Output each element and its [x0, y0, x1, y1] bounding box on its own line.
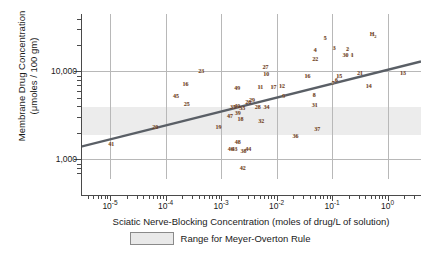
data-point-label: 16	[304, 73, 310, 79]
x-tick-minor	[320, 195, 321, 199]
y-tick-minor	[77, 164, 82, 165]
data-point-label: 14	[366, 83, 372, 89]
x-tick-minor	[93, 195, 94, 199]
data-point-label: 8	[313, 92, 316, 98]
gridline-horizontal-1000	[81, 159, 421, 160]
y-tick-minor	[77, 117, 82, 118]
data-point-label: 28	[255, 104, 261, 110]
scatter-plot-figure: 4120451625231947354049394643483318384442…	[0, 0, 440, 257]
data-point-label: 29	[249, 97, 255, 103]
data-point-label: 16	[183, 81, 189, 87]
y-tick-minor	[77, 29, 82, 30]
data-point-label: 36	[293, 133, 299, 139]
x-tick-minor	[414, 195, 415, 199]
x-tick-label: 10-4	[158, 199, 173, 211]
x-tick-minor	[107, 195, 108, 199]
x-tick-minor	[382, 195, 383, 199]
x-tick-minor	[101, 195, 102, 199]
x-tick-minor	[323, 195, 324, 199]
data-point-label: 18	[238, 116, 244, 122]
x-tick-minor	[219, 195, 220, 199]
gridline-vertical-0	[110, 14, 111, 179]
x-tick-minor	[105, 195, 106, 199]
x-tick-minor	[160, 195, 161, 199]
data-point-label: 1	[351, 52, 354, 58]
x-tick-minor	[404, 195, 405, 199]
x-tick-minor	[379, 195, 380, 199]
x-tick-minor	[303, 195, 304, 199]
y-tick-minor	[77, 45, 82, 46]
x-tick-minor	[192, 195, 193, 199]
x-tick-minor	[274, 195, 275, 199]
x-tick-minor	[238, 195, 239, 199]
y-tick-label: 10,000	[51, 66, 77, 76]
legend: Range for Meyer-Overton Rule	[0, 232, 440, 245]
data-point-label: 4	[314, 47, 317, 53]
data-point-label: 3	[333, 45, 336, 51]
data-point-label: 42	[240, 165, 246, 171]
gridline-vertical-1	[166, 14, 167, 179]
x-tick-label: 10-5	[102, 199, 117, 211]
data-point-label: 19	[216, 124, 222, 130]
x-tick-minor	[248, 195, 249, 199]
x-tick-minor	[157, 195, 158, 199]
legend-swatch-meyer-overton	[130, 232, 174, 245]
x-tick-minor	[359, 195, 360, 199]
x-tick-minor	[153, 195, 154, 199]
x-axis-title: Sciatic Nerve-Blocking Concentration (mo…	[81, 216, 421, 227]
data-point-label: 9	[282, 93, 285, 99]
x-tick-minor	[204, 195, 205, 199]
x-tick-minor	[371, 195, 372, 199]
x-tick-minor	[268, 195, 269, 199]
meyer-overton-band	[81, 107, 421, 134]
x-tick-minor	[375, 195, 376, 199]
y-tick-minor	[77, 168, 82, 169]
data-point-label: H2	[370, 31, 377, 39]
data-point-label: 31	[312, 102, 318, 108]
x-tick-label: 10-1	[324, 199, 339, 211]
y-tick-minor	[77, 173, 82, 174]
data-point-label: 27	[262, 64, 268, 70]
x-tick-minor	[209, 195, 210, 199]
data-point-label: 45	[173, 93, 179, 99]
y-axis-title-line2: (μmoles / 100 gm)	[28, 0, 40, 156]
legend-label-meyer-overton: Range for Meyer-Overton Rule	[181, 233, 311, 244]
data-point-label: 43	[232, 146, 238, 152]
data-point-label: 12	[279, 83, 285, 89]
data-point-label: 49	[234, 85, 240, 91]
x-tick-minor	[310, 195, 311, 199]
x-tick-label: 10-2	[269, 199, 284, 211]
x-tick-minor	[349, 195, 350, 199]
y-axis-title-line1: Membrane Drug Concentration	[16, 0, 28, 156]
x-tick-minor	[212, 195, 213, 199]
y-tick-minor	[77, 98, 82, 99]
x-tick-minor	[293, 195, 294, 199]
x-tick-minor	[254, 195, 255, 199]
y-tick-minor	[77, 106, 82, 107]
data-point-label: 30	[343, 52, 349, 58]
data-point-label: 47	[227, 113, 233, 119]
data-point-label: 41	[108, 141, 114, 147]
data-point-label: 33	[239, 105, 245, 111]
data-point-label: 21	[357, 70, 363, 76]
data-point-label: 5	[324, 35, 327, 41]
y-tick-minor	[77, 91, 82, 92]
x-tick-minor	[327, 195, 328, 199]
x-tick-minor	[199, 195, 200, 199]
data-point-label: 2	[346, 46, 349, 52]
y-tick-minor	[77, 76, 82, 77]
y-tick-minor	[77, 133, 82, 134]
x-tick-minor	[149, 195, 150, 199]
gridline-vertical-4	[332, 14, 333, 179]
data-point-label: 48	[235, 139, 241, 145]
data-point-label: 37	[314, 126, 320, 132]
x-tick-minor	[137, 195, 138, 199]
x-tick-minor	[365, 195, 366, 199]
x-tick-minor	[271, 195, 272, 199]
data-point-label: 20	[152, 124, 158, 130]
gridline-vertical-3	[277, 14, 278, 179]
x-tick-minor	[330, 195, 331, 199]
data-point-label: 13	[400, 70, 406, 76]
data-point-label: 11	[257, 84, 263, 90]
data-point-label: 17	[270, 84, 276, 90]
